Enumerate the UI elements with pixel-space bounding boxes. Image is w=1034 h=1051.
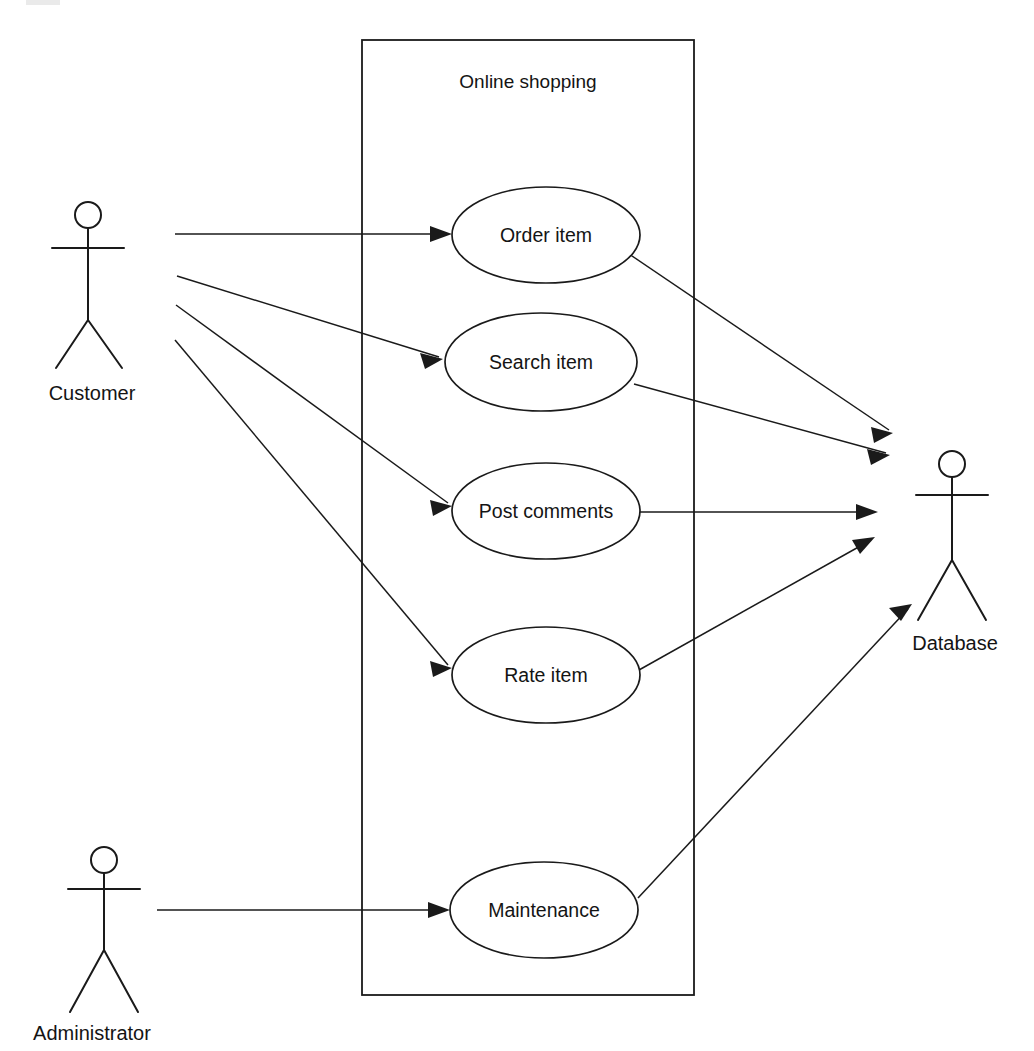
arrow-head-icon [871, 427, 893, 443]
actor-label: Customer [49, 382, 136, 404]
use-case-rate-item[interactable]: Rate item [452, 627, 640, 723]
actor-leg-right-icon [104, 950, 138, 1012]
association-line [176, 305, 448, 503]
association-customer-to-search-item[interactable] [177, 276, 443, 369]
arrow-head-icon [430, 661, 452, 677]
actor-database[interactable]: Database [912, 451, 998, 654]
association-post-comments-to-database[interactable] [640, 504, 878, 520]
association-customer-to-order-item[interactable] [175, 226, 452, 242]
arrow-head-icon [889, 604, 912, 621]
association-administrator-to-maintenance[interactable] [157, 902, 450, 918]
actor-leg-left-icon [918, 560, 952, 620]
diagram-svg: Online shopping [0, 0, 1034, 1051]
arrow-head-icon [430, 500, 452, 516]
association-line [175, 340, 448, 665]
association-order-item-to-database[interactable] [629, 254, 893, 443]
use-case-label: Post comments [479, 500, 614, 522]
association-customer-to-rate-item[interactable] [175, 340, 452, 677]
actor-leg-left-icon [56, 320, 88, 368]
actor-leg-left-icon [70, 950, 104, 1012]
actor-leg-right-icon [88, 320, 122, 368]
association-search-item-to-database[interactable] [634, 384, 890, 465]
use-case-label: Rate item [504, 664, 587, 686]
association-rate-item-to-database[interactable] [639, 537, 875, 670]
actor-customer[interactable]: Customer [49, 202, 136, 404]
use-case-search-item[interactable]: Search item [445, 313, 637, 411]
association-line [177, 276, 439, 357]
arrow-head-icon [852, 537, 875, 554]
actor-administrator[interactable]: Administrator [33, 847, 151, 1044]
actor-label: Database [912, 632, 998, 654]
actor-head-icon [91, 847, 117, 873]
actor-leg-right-icon [952, 560, 986, 620]
arrow-head-icon [430, 226, 452, 242]
use-case-label: Search item [489, 351, 593, 373]
actor-label: Administrator [33, 1022, 151, 1044]
association-customer-to-post-comments[interactable] [176, 305, 452, 516]
arrow-head-icon [856, 504, 878, 520]
system-boundary-label: Online shopping [459, 71, 596, 92]
association-line [629, 254, 889, 430]
use-case-label: Maintenance [488, 899, 600, 921]
association-line [639, 540, 871, 670]
use-case-order-item[interactable]: Order item [452, 187, 640, 283]
use-case-post-comments[interactable]: Post comments [452, 463, 640, 559]
use-case-label: Order item [500, 224, 592, 246]
arrow-head-icon [428, 902, 450, 918]
association-line [638, 609, 908, 898]
use-case-maintenance[interactable]: Maintenance [450, 862, 638, 958]
use-case-diagram-canvas: Online shopping [0, 0, 1034, 1051]
actor-head-icon [75, 202, 101, 228]
actor-head-icon [939, 451, 965, 477]
association-line [634, 384, 886, 453]
